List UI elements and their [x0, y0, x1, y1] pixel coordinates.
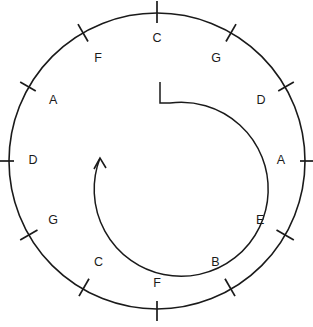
note-label-f-11: F: [94, 51, 102, 65]
note-label-f-6: F: [153, 276, 161, 290]
clockwise-spiral-arrow: [94, 82, 268, 276]
note-label-b-5: B: [211, 255, 219, 269]
tick-mark-f-11: [78, 24, 88, 41]
tick-mark-g-8: [20, 230, 37, 240]
note-label-d-9: D: [28, 153, 37, 167]
note-label-a-3: A: [277, 153, 286, 167]
note-label-c-0: C: [152, 31, 161, 45]
note-label-d-2: D: [256, 93, 265, 107]
note-label-c-7: C: [94, 255, 103, 269]
arrow-head-icon: [94, 158, 106, 169]
outer-circle: [9, 13, 305, 309]
circle-diagram-svg: CGDAEBFCGDAF: [0, 0, 313, 327]
tick-mark-g-1: [226, 24, 236, 41]
note-label-g-1: G: [211, 51, 221, 65]
spiral-arc-path: [94, 82, 268, 276]
note-label-g-8: G: [48, 213, 58, 227]
diagram-canvas: CGDAEBFCGDAF: [0, 0, 313, 327]
note-label-a-10: A: [49, 93, 58, 107]
note-label-group: CGDAEBFCGDAF: [28, 31, 285, 290]
tick-mark-e-4: [277, 230, 294, 240]
